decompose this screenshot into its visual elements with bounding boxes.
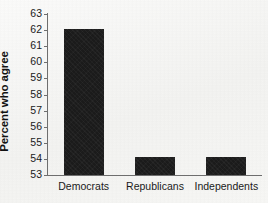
bar-texture bbox=[64, 29, 104, 176]
y-axis-tick-mark bbox=[44, 159, 48, 160]
bar-democrats bbox=[64, 29, 104, 176]
y-axis-tick-label: 60 bbox=[30, 55, 42, 67]
y-axis-tick-mark bbox=[44, 143, 48, 144]
y-axis-tick-label: 53 bbox=[30, 168, 42, 180]
y-axis-tick-mark bbox=[44, 78, 48, 79]
y-axis-tick-mark bbox=[44, 14, 48, 15]
y-axis-tick-label: 57 bbox=[30, 104, 42, 116]
x-axis-label-democrats: Democrats bbox=[48, 180, 119, 192]
y-axis-tick-label: 63 bbox=[30, 7, 42, 19]
x-axis-label-republicans: Republicans bbox=[119, 180, 190, 192]
plot-area: 5354555657585960616263 bbox=[48, 14, 262, 175]
x-axis-label-independents: Independents bbox=[191, 180, 262, 192]
y-axis-title: Percent who agree bbox=[2, 0, 24, 203]
y-axis-tick-label: 61 bbox=[30, 39, 42, 51]
y-axis-tick-mark bbox=[44, 95, 48, 96]
y-axis-tick-mark bbox=[44, 127, 48, 128]
x-axis-line bbox=[47, 175, 262, 176]
bar-texture bbox=[135, 157, 175, 175]
y-axis-tick-label: 62 bbox=[30, 23, 42, 35]
bar-chart: Percent who agree 5354555657585960616263… bbox=[0, 0, 268, 203]
y-axis-tick-mark bbox=[44, 62, 48, 63]
bar-republicans bbox=[135, 157, 175, 175]
y-axis-tick-label: 59 bbox=[30, 71, 42, 83]
y-axis-tick-label: 55 bbox=[30, 136, 42, 148]
y-axis-tick-mark bbox=[44, 111, 48, 112]
y-axis-tick-label: 54 bbox=[30, 152, 42, 164]
y-axis-tick-label: 58 bbox=[30, 88, 42, 100]
y-axis-tick-mark bbox=[44, 30, 48, 31]
bar-texture bbox=[206, 157, 246, 175]
y-axis-tick-label: 56 bbox=[30, 120, 42, 132]
bar-independents bbox=[206, 157, 246, 175]
y-axis-tick-mark bbox=[44, 175, 48, 176]
y-axis-tick-mark bbox=[44, 46, 48, 47]
